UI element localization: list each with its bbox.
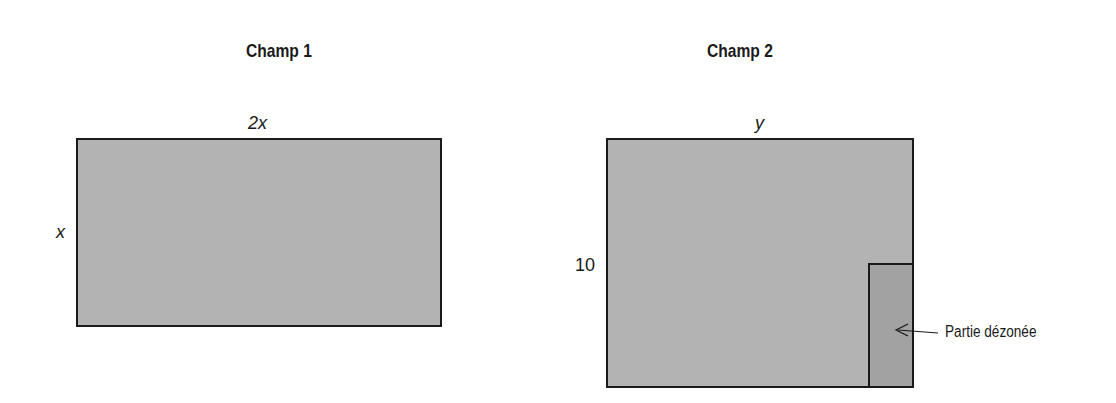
rezoned-part-label: Partie dézonée xyxy=(945,323,1036,341)
callout-arrow-icon xyxy=(0,0,1116,403)
